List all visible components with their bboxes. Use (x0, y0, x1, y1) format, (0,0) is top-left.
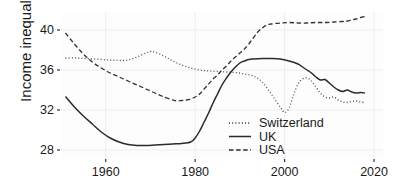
x-tick-label: 1960 (81, 166, 131, 179)
legend-label-uk: UK (259, 131, 276, 144)
chart-figure: Income inequality 2832364019601980200020… (0, 0, 394, 191)
x-tick-label: 2020 (349, 166, 394, 179)
x-tick-label: 2000 (260, 166, 310, 179)
y-tick-label: 32 (40, 104, 54, 117)
x-tick-label: 1980 (170, 166, 220, 179)
legend-label-switzerland: Switzerland (259, 117, 324, 130)
legend-label-usa: USA (259, 144, 285, 157)
y-tick-label: 40 (40, 24, 54, 37)
y-axis-title: Income inequality (17, 0, 34, 124)
line-chart-plot-area (0, 0, 394, 191)
y-tick-label: 36 (40, 64, 54, 77)
y-tick-label: 28 (40, 144, 54, 157)
